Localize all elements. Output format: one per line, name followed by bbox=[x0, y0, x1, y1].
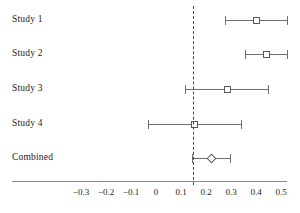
estimate-square-marker bbox=[224, 86, 231, 93]
x-tick-label: 0.1 bbox=[175, 187, 186, 197]
x-axis-line bbox=[12, 181, 287, 182]
estimate-square-marker bbox=[253, 17, 260, 24]
estimate-square-marker bbox=[191, 121, 198, 128]
forest-plot: Study 1Study 2Study 3Study 4Combined −0.… bbox=[0, 0, 300, 213]
x-tick-label: 0.3 bbox=[225, 187, 236, 197]
ci-cap-upper bbox=[287, 50, 288, 59]
ci-cap-upper bbox=[287, 16, 288, 25]
study-label: Combined bbox=[12, 152, 53, 162]
ci-cap-lower bbox=[225, 16, 226, 25]
study-label: Study 2 bbox=[12, 48, 43, 58]
ci-cap-lower bbox=[148, 120, 149, 129]
ci-cap-lower bbox=[185, 85, 186, 94]
summary-diamond-marker bbox=[206, 153, 216, 163]
ci-cap-upper bbox=[268, 85, 269, 94]
x-tick-label: 0 bbox=[154, 187, 159, 197]
study-label: Study 4 bbox=[12, 118, 43, 128]
x-tick-label: −0.1 bbox=[123, 187, 139, 197]
ci-cap-upper bbox=[230, 154, 231, 163]
x-tick-label: 0.4 bbox=[250, 187, 261, 197]
study-label: Study 3 bbox=[12, 83, 43, 93]
ci-cap-lower bbox=[245, 50, 246, 59]
x-tick-label: −0.3 bbox=[73, 187, 89, 197]
x-tick-label: −0.2 bbox=[98, 187, 114, 197]
estimate-square-marker bbox=[263, 51, 270, 58]
ci-cap-upper bbox=[241, 120, 242, 129]
x-tick-label: 0.2 bbox=[200, 187, 211, 197]
reference-line bbox=[193, 6, 194, 185]
x-tick-label: 0.5 bbox=[275, 187, 286, 197]
study-label: Study 1 bbox=[12, 14, 43, 24]
